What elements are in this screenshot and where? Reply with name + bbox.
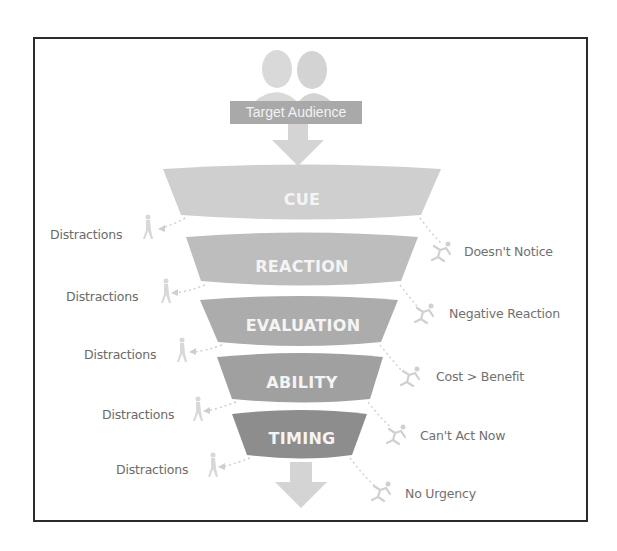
person-walking-icon <box>193 397 203 422</box>
person-falling-icon <box>387 425 406 445</box>
person-falling-icon <box>372 482 391 502</box>
distractions-label: Distractions <box>66 289 138 304</box>
failure-label-reaction: Negative Reaction <box>449 306 560 321</box>
stage-label-timing: TIMING <box>250 429 354 448</box>
distractions-label: Distractions <box>102 407 174 422</box>
distractions-label: Distractions <box>50 227 122 242</box>
person-falling-icon <box>415 304 434 324</box>
failure-label-timing: No Urgency <box>405 486 476 501</box>
failure-label-cue: Doesn't Notice <box>464 244 553 259</box>
target-audience-label: Target Audience <box>230 101 362 124</box>
person-falling-icon <box>432 242 451 262</box>
person-falling-icon <box>401 367 420 387</box>
arrow-down-icon <box>272 124 324 166</box>
failure-label-ability: Can't Act Now <box>420 428 505 443</box>
distractions-label: Distractions <box>116 462 188 477</box>
distractions-label: Distractions <box>84 347 156 362</box>
arrow-down-icon <box>275 462 327 508</box>
stage-label-reaction: REACTION <box>240 257 364 276</box>
person-walking-icon <box>177 338 187 363</box>
person-walking-icon <box>208 453 218 478</box>
stage-label-cue: CUE <box>250 190 354 209</box>
person-walking-icon <box>143 215 153 240</box>
stage-label-ability: ABILITY <box>250 373 354 392</box>
stage-label-evaluation: EVALUATION <box>228 316 378 335</box>
failure-label-evaluation: Cost > Benefit <box>436 369 524 384</box>
person-walking-icon <box>161 279 171 304</box>
